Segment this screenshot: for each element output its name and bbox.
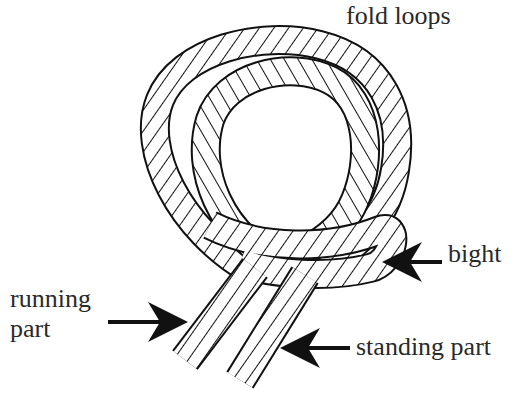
knot-diagram: fold loops bight running part standing p… — [0, 0, 531, 400]
fold-loops-label: fold loops — [346, 2, 451, 30]
running-part-label-line2: part — [10, 315, 50, 343]
bight-label: bight — [448, 240, 501, 268]
running-part-label-line1: running — [10, 285, 91, 313]
standing-part-label: standing part — [356, 333, 491, 361]
